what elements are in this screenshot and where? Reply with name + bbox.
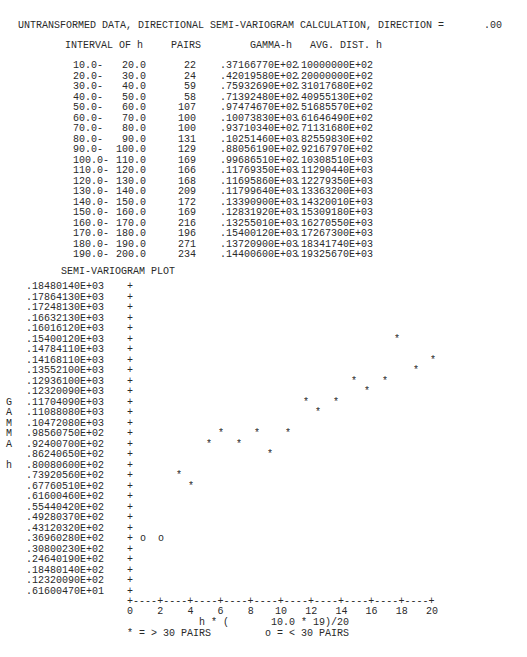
x-tick-label: 4 <box>187 607 193 618</box>
y-tick-label: .61600470E+01 <box>26 587 104 598</box>
y-tick-label: .14784110E+03 <box>26 345 104 356</box>
table-row: 190.0-200.0234.14400600E+03.19325670E+03 <box>0 250 527 261</box>
data-point-circle: o <box>140 534 146 545</box>
interval-from: 110.0- <box>73 166 109 177</box>
interval-from: 10.0- <box>73 61 103 72</box>
y-tick-label: .73920560E+02 <box>26 471 104 482</box>
data-point-star: * <box>315 408 321 419</box>
data-point-star: * <box>364 387 370 398</box>
data-point-star: * <box>351 377 357 388</box>
x-tick-label: 16 <box>366 607 378 618</box>
y-tick-label: .11088080E+03 <box>26 408 104 419</box>
report-title: UNTRANSFORMED DATA, DIRECTIONAL SEMI-VAR… <box>18 21 444 32</box>
data-point-star: * <box>285 429 291 440</box>
pairs-cell: 166 <box>178 166 196 177</box>
data-point-star: * <box>254 429 260 440</box>
table-row: 50.0-60.0107.97474670E+02.51685570E+02 <box>0 103 527 114</box>
interval-to: 200.0 <box>116 250 146 261</box>
interval-from: 150.0- <box>73 208 109 219</box>
col-gamma-header: GAMMA-h <box>250 41 292 52</box>
interval-to: 180.0 <box>116 229 146 240</box>
y-tick-mark: + <box>127 282 133 293</box>
plot-title: SEMI-VARIOGRAM PLOT <box>61 267 175 278</box>
data-point-star: * <box>382 377 388 388</box>
data-point-star: * <box>218 429 224 440</box>
pairs-cell: 209 <box>178 187 196 198</box>
pairs-cell: 169 <box>178 208 196 219</box>
x-tick-label: 14 <box>335 607 347 618</box>
x-axis-label: h * ( 10.0 * 19)/20 <box>199 618 349 629</box>
gamma-cell: .97474670E+02 <box>220 103 298 114</box>
x-tick-label: 20 <box>426 607 438 618</box>
data-point-star: * <box>236 440 242 451</box>
interval-to: 120.0 <box>116 166 146 177</box>
avg-dist-cell: .51685570E+02 <box>295 103 373 114</box>
data-point-circle: o <box>158 534 164 545</box>
y-tick-label: .13552100E+03 <box>26 366 104 377</box>
y-tick-label: .18480140E+03 <box>26 282 104 293</box>
y-axis-label-letter: A <box>6 408 12 419</box>
pairs-cell: 234 <box>178 250 196 261</box>
y-tick-label: .98560750E+02 <box>26 429 104 440</box>
interval-from: 190.0- <box>73 250 109 261</box>
direction-value: .00 <box>484 21 502 32</box>
y-axis-label-letter: h <box>6 461 12 472</box>
data-point-star: * <box>303 398 309 409</box>
y-tick-mark: + <box>127 429 133 440</box>
col-pairs-header: PAIRS <box>171 41 201 52</box>
y-tick-mark: + <box>127 408 133 419</box>
table-row: 10.0-20.022.37166770E+02.10000000E+02 <box>0 61 527 72</box>
interval-to: 20.0 <box>122 61 146 72</box>
table-row: 70.0-80.0100.93710340E+02.71131680E+02 <box>0 124 527 135</box>
y-tick-label: .16016120E+03 <box>26 324 104 335</box>
y-tick-mark: + <box>127 450 133 461</box>
avg-dist-cell: .10000000E+02 <box>295 61 373 72</box>
interval-to: 140.0 <box>116 187 146 198</box>
gamma-cell: .15400120E+03 <box>220 229 298 240</box>
y-tick-label: .86240650E+02 <box>26 450 104 461</box>
y-tick-label: .61600460E+02 <box>26 492 104 503</box>
interval-from: 30.0- <box>73 82 103 93</box>
x-tick-label: 18 <box>396 607 408 618</box>
avg-dist-cell: .31017680E+02 <box>295 82 373 93</box>
y-tick-label: .12320090E+02 <box>26 576 104 587</box>
x-tick-label: 10 <box>275 607 287 618</box>
interval-from: 130.0- <box>73 187 109 198</box>
y-tick-mark: + <box>127 303 133 314</box>
interval-to: 160.0 <box>116 208 146 219</box>
y-tick-mark: + <box>127 324 133 335</box>
y-tick-label: .49280370E+02 <box>26 513 104 524</box>
interval-to: 40.0 <box>122 82 146 93</box>
y-tick-mark: + <box>127 576 133 587</box>
table-row: 170.0-180.0196.15400120E+03.17267300E+03 <box>0 229 527 240</box>
data-point-star: * <box>430 356 436 367</box>
y-tick-label: .12320090E+03 <box>26 387 104 398</box>
avg-dist-cell: .11290440E+03 <box>295 166 373 177</box>
avg-dist-cell: .19325670E+03 <box>295 250 373 261</box>
y-tick-mark: + <box>127 471 133 482</box>
y-tick-label: .17248130E+03 <box>26 303 104 314</box>
y-tick-mark: + <box>127 555 133 566</box>
gamma-cell: .75932690E+02 <box>220 82 298 93</box>
y-tick-mark: + <box>127 513 133 524</box>
interval-from: 90.0- <box>73 145 103 156</box>
avg-dist-cell: .71131680E+02 <box>295 124 373 135</box>
data-point-star: * <box>413 366 419 377</box>
interval-from: 70.0- <box>73 124 103 135</box>
interval-from: 50.0- <box>73 103 103 114</box>
data-point-star: * <box>267 450 273 461</box>
y-tick-mark: + <box>127 387 133 398</box>
pairs-cell: 129 <box>178 145 196 156</box>
data-point-star: * <box>176 471 182 482</box>
pairs-cell: 196 <box>178 229 196 240</box>
gamma-cell: .88056190E+02 <box>220 145 298 156</box>
x-tick-label: 12 <box>305 607 317 618</box>
y-tick-label: .36960280E+02 <box>26 534 104 545</box>
x-tick-label: 2 <box>157 607 163 618</box>
gamma-cell: .14400600E+03 <box>220 250 298 261</box>
y-tick-mark: + <box>127 345 133 356</box>
gamma-cell: .93710340E+02 <box>220 124 298 135</box>
x-tick-label: 8 <box>248 607 254 618</box>
table-row: 30.0-40.059.75932690E+02.31017680E+02 <box>0 82 527 93</box>
avg-dist-cell: .15309180E+03 <box>295 208 373 219</box>
